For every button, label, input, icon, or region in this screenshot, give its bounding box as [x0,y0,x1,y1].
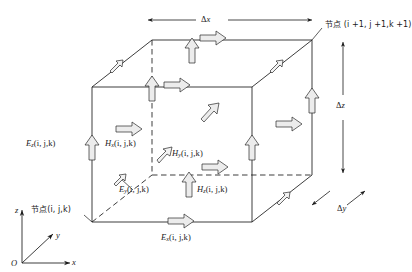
axis-label-x: x [72,257,76,267]
dimension-label-dz: Δz [336,100,345,110]
arrow-right-side-face [276,117,302,131]
dimension-label-dy: Δy [337,203,346,213]
axis-y [22,234,53,263]
node-label-near: 节点(i, j,k) [31,206,71,214]
arrow-diag-top-right-edge [270,60,283,73]
arrow-up-far-right-edge [305,88,319,113]
arrow-up-hz [182,172,196,197]
arrow-right-top-back [200,31,226,45]
axis-label-z: z [15,205,18,215]
arrow-up-top-face [185,38,199,63]
arrow-diag-top-left-edge [110,60,123,73]
arrow-up-right-edge [245,135,259,160]
arrow-right-top-front [164,78,190,92]
node-label-far: 节点 (i +1, j +1,k +1) [325,21,412,29]
field-label-ez: Ez(i, j,k) [26,139,56,148]
arrow-right-mid-back [202,160,228,174]
field-label-hy: Hy(i, j,k) [172,149,203,158]
arrow-diag-hy-label [157,147,172,163]
arrow-diag-bottom-right-edge [277,192,290,205]
arrow-right-hx [116,122,142,136]
dimension-label-dx: Δx [201,14,210,24]
arrow-up-ez-left [85,135,99,160]
field-label-ex: Ex(i, j,k) [161,233,191,242]
arrow-up-back-left [145,76,159,101]
axis-label-origin: O [11,258,17,268]
arrow-right-bottom-front [168,214,194,228]
field-label-ey: Ey(i, j,k) [119,185,149,194]
arrow-diag-hy [201,103,219,122]
field-label-hz: Hz(i, j,k) [197,185,228,194]
axis-label-y: y [56,230,60,240]
coordinate-axes [22,210,70,263]
field-label-hx: Hx(i, j,k) [105,139,136,148]
field-arrows-x [116,31,302,228]
